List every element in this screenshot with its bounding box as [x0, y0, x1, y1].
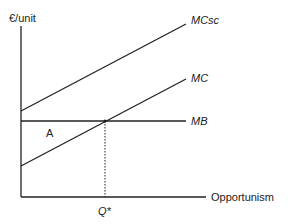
equilibrium-label: Q*: [98, 205, 112, 217]
equilibrium-point: [104, 120, 107, 123]
mc-curve: [21, 79, 186, 166]
mc-label: MC: [191, 72, 208, 84]
mcsc-curve: [21, 24, 186, 111]
y-axis-label: €/unit: [9, 12, 36, 24]
mb-label: MB: [191, 115, 208, 127]
mcsc-label: MCsc: [191, 14, 220, 26]
opportunism-diagram: €/unit Opportunism MCsc MC MB A Q*: [0, 0, 293, 224]
x-axis-label: Opportunism: [211, 191, 274, 203]
area-label: A: [46, 127, 54, 139]
